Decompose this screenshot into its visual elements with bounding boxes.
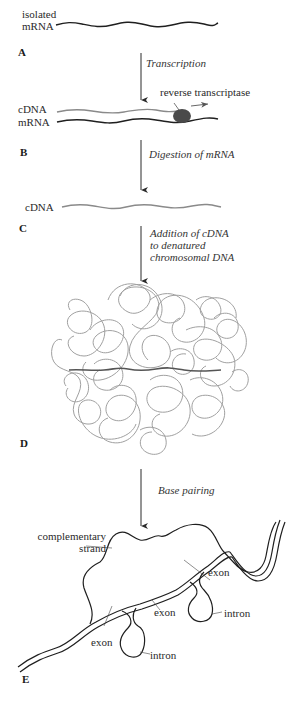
duplex-outer-strand (18, 552, 230, 667)
reverse-transcriptase-enzyme (173, 109, 191, 123)
cdna-label-c: cDNA (25, 201, 54, 213)
intron-loop-1 (120, 608, 144, 657)
cdna-label-b: cDNA (18, 103, 47, 115)
cdna-probe-in-tangle (69, 368, 221, 371)
exon-label-2: exon (154, 606, 175, 618)
strand-text: strand (30, 542, 106, 554)
transition-addition: Addition of cDNA to denatured chromosoma… (150, 227, 234, 263)
step-label-d: D (20, 437, 28, 449)
step-label-b: B (20, 146, 27, 158)
complementary-strand-label: complementary strand (30, 530, 106, 554)
intron-label-1: intron (224, 607, 250, 619)
isolated-mrna-label: isolated mRNA (22, 8, 56, 32)
addition-line-2: to denatured (150, 239, 234, 251)
cdna-mrna-hybrid (57, 103, 218, 123)
mrna-strand (57, 118, 218, 123)
complementary-text: complementary (30, 530, 106, 542)
mrna-label-b: mRNA (18, 116, 50, 128)
step-label-e: E (22, 673, 29, 685)
reverse-transcriptase-label: reverse transcriptase (160, 86, 250, 98)
addition-line-1: Addition of cDNA (150, 227, 234, 239)
cdna-strand (57, 109, 178, 113)
transition-transcription: Transcription (146, 57, 206, 69)
step-label-c: C (19, 222, 27, 234)
mrna-text: mRNA (22, 20, 56, 32)
transition-digestion: Digestion of mRNA (149, 148, 235, 160)
exon-label-1: exon (208, 566, 229, 578)
step-label-a: A (18, 46, 26, 58)
isolated-mrna-strand (56, 22, 218, 27)
exon-label-3: exon (91, 636, 112, 648)
transition-base-pairing: Base pairing (158, 484, 215, 496)
enzyme-leader-line (174, 103, 179, 110)
isolated-text: isolated (22, 8, 56, 20)
direction-arrow (191, 104, 208, 106)
single-cdna-strand (62, 204, 221, 208)
addition-line-3: chromosomal DNA (150, 251, 234, 263)
intron-label-2: intron (150, 649, 176, 661)
